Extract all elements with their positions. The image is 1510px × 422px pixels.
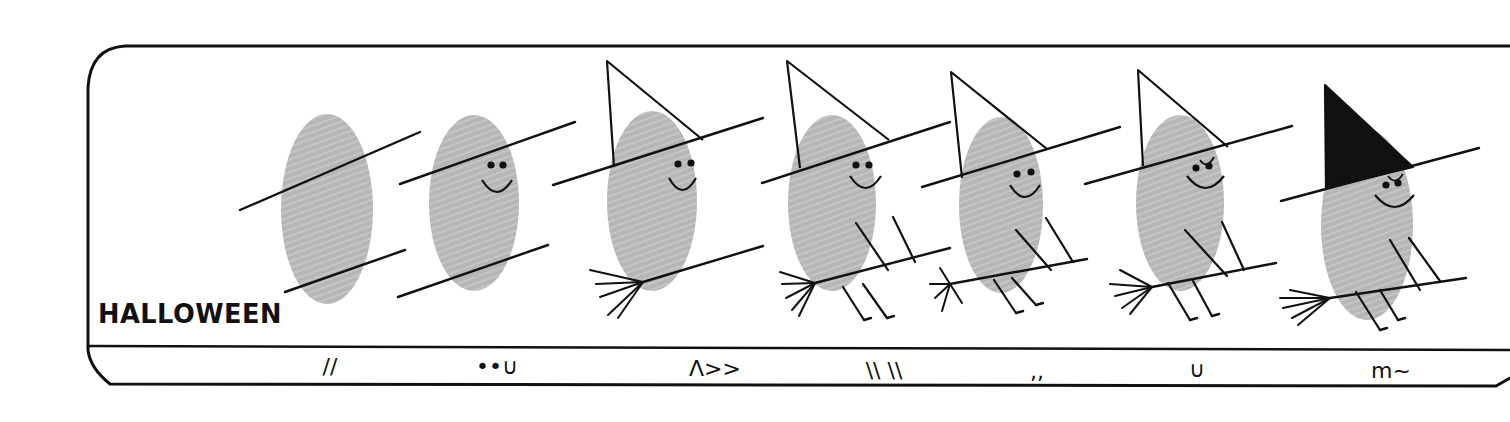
divider-line [88, 346, 1510, 350]
foot [1016, 311, 1023, 313]
caption-strip: //••∪Λ>>\\ \\,,∪m~ [323, 354, 1411, 384]
step-1 [240, 114, 420, 304]
arm-line [1222, 222, 1244, 270]
eye-dot [865, 161, 872, 168]
foot [887, 316, 894, 318]
eye-dot [687, 159, 694, 166]
leg-line [863, 284, 887, 318]
step-4 [762, 61, 950, 320]
leg-line [843, 287, 864, 320]
step-caption-glyph: ,, [1030, 359, 1044, 384]
foot [1190, 318, 1197, 320]
step-2 [398, 115, 575, 297]
thumbprint [1136, 115, 1224, 291]
leg-line [1193, 281, 1212, 316]
broom-bristle [1290, 290, 1330, 298]
step-6 [1085, 70, 1292, 320]
broom-bristle [940, 268, 950, 284]
foot [1212, 314, 1219, 316]
thumbprint [959, 117, 1043, 293]
eye-dot [1013, 170, 1020, 177]
step-7 [1280, 85, 1479, 330]
step-caption-glyph: ••∪ [476, 354, 518, 379]
foot [1398, 318, 1405, 320]
eye-dot [487, 161, 494, 168]
step-caption-glyph: // [323, 354, 338, 379]
step-caption-glyph: Λ>> [689, 356, 741, 381]
broom-bristle [782, 283, 815, 284]
foot [864, 318, 871, 320]
step-caption-glyph: m~ [1371, 358, 1411, 383]
thumbprint [281, 114, 373, 304]
thumbprint [788, 115, 876, 291]
foot [1036, 303, 1043, 305]
thumbprint [429, 115, 519, 291]
halloween-illustration: //••∪Λ>>\\ \\,,∪m~ [0, 0, 1510, 422]
step-5 [922, 72, 1120, 313]
broom-bristle [950, 284, 962, 303]
arm-line [1046, 218, 1073, 262]
step-caption-glyph: \\ \\ [866, 358, 903, 383]
step-caption-glyph: ∪ [1189, 357, 1205, 382]
eye-dot [1027, 168, 1034, 175]
arm-line [893, 217, 915, 262]
eye-dot [852, 161, 859, 168]
steps-layer [240, 61, 1479, 330]
arm-line [1409, 238, 1440, 281]
eye-dot [1192, 164, 1199, 171]
thumbprint [607, 111, 697, 291]
foot [1380, 328, 1387, 330]
eye-dot [674, 160, 681, 167]
eye-dot [1382, 181, 1389, 188]
broom-bristle [608, 282, 643, 315]
title-label: HALLOWEEN [98, 298, 282, 329]
leg-line [1012, 278, 1036, 305]
step-3 [553, 61, 763, 318]
eye-dot [499, 161, 506, 168]
